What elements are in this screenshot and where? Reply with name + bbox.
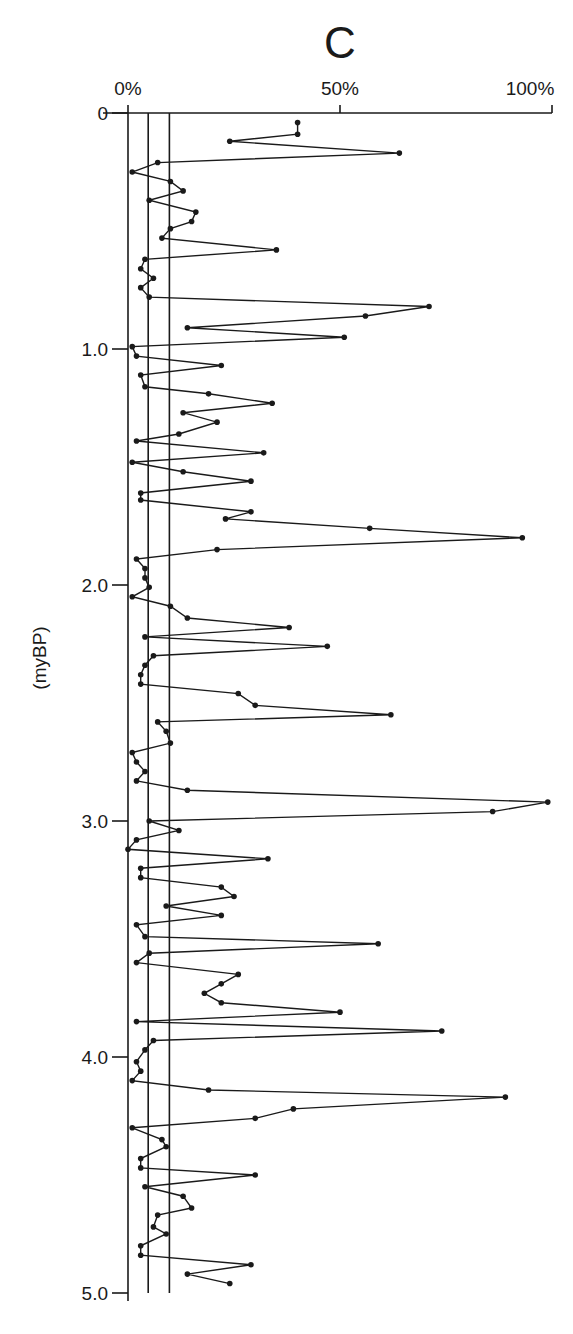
y-tick-label: 4.0: [82, 1047, 108, 1068]
data-point: [129, 594, 135, 600]
x-tick-label: 0%: [114, 78, 142, 99]
data-point: [367, 526, 373, 532]
data-point: [142, 384, 148, 390]
data-point: [168, 603, 174, 609]
data-point: [176, 431, 182, 437]
data-point: [134, 1059, 140, 1065]
data-point: [142, 769, 148, 775]
data-point: [129, 750, 135, 756]
data-point: [223, 516, 229, 522]
data-point: [155, 719, 161, 725]
data-point: [146, 198, 152, 204]
data-point: [176, 828, 182, 834]
data-point: [129, 344, 135, 350]
data-point: [168, 740, 174, 746]
y-axis-label: (myBP): [29, 626, 50, 689]
data-point: [337, 1009, 343, 1015]
data-point: [375, 941, 381, 947]
data-point: [227, 1281, 233, 1287]
data-point: [269, 400, 275, 406]
data-point: [129, 169, 135, 175]
data-point: [163, 1144, 169, 1150]
data-point: [134, 759, 140, 765]
percentage-depth-chart: C 0%50%100% 01.02.03.04.05.0 (myBP): [0, 0, 573, 1334]
data-point: [214, 419, 220, 425]
data-point: [142, 934, 148, 940]
data-point: [125, 847, 131, 853]
data-point: [138, 1156, 144, 1162]
series-line: [128, 122, 548, 1283]
data-point: [180, 410, 186, 416]
y-tick-label: 5.0: [82, 1283, 108, 1304]
data-series: [125, 120, 550, 1287]
data-point: [142, 662, 148, 668]
data-point: [168, 179, 174, 185]
data-point: [138, 266, 144, 272]
data-point: [261, 450, 267, 456]
data-point: [151, 275, 157, 281]
data-point: [206, 1087, 212, 1093]
data-point: [545, 799, 551, 805]
data-point: [439, 1028, 445, 1034]
chart-title: C: [324, 18, 356, 67]
data-point: [231, 894, 237, 900]
data-point: [227, 139, 233, 145]
data-point: [146, 950, 152, 956]
data-point: [138, 1068, 144, 1074]
data-point: [252, 703, 258, 709]
data-point: [163, 903, 169, 909]
y-tick-label: 1.0: [82, 339, 108, 360]
data-point: [214, 547, 220, 553]
data-point: [248, 509, 254, 515]
data-point: [218, 913, 224, 919]
data-point: [138, 875, 144, 881]
data-point: [252, 1116, 258, 1122]
data-point: [180, 1193, 186, 1199]
data-point: [193, 209, 199, 215]
data-point: [274, 247, 280, 253]
data-point: [189, 219, 195, 225]
reference-lines: [148, 113, 169, 1293]
data-point: [159, 235, 165, 241]
data-point: [138, 372, 144, 378]
data-point: [189, 1205, 195, 1211]
data-point: [426, 304, 432, 310]
data-point: [134, 1019, 140, 1025]
data-point: [151, 653, 157, 659]
data-point: [520, 535, 526, 541]
data-point: [138, 1252, 144, 1258]
data-point: [248, 478, 254, 484]
data-point: [218, 1000, 224, 1006]
data-point: [248, 1262, 254, 1268]
data-point: [185, 1271, 191, 1277]
data-point: [185, 325, 191, 331]
data-point: [129, 1078, 135, 1084]
data-point: [180, 188, 186, 194]
data-point: [138, 681, 144, 687]
x-axis: 0%50%100%: [103, 78, 554, 113]
data-point: [138, 497, 144, 503]
data-point: [252, 1172, 258, 1178]
data-point: [235, 972, 241, 978]
data-point: [155, 160, 161, 166]
y-tick-label: 2.0: [82, 575, 108, 596]
chart-container: C 0%50%100% 01.02.03.04.05.0 (myBP): [0, 0, 573, 1334]
data-point: [291, 1106, 297, 1112]
data-point: [142, 566, 148, 572]
data-point: [134, 778, 140, 784]
data-point: [142, 634, 148, 640]
data-point: [142, 1184, 148, 1190]
data-point: [206, 391, 212, 397]
data-point: [341, 334, 347, 340]
data-point: [163, 729, 169, 735]
data-point: [142, 1047, 148, 1053]
data-point: [218, 363, 224, 369]
x-tick-label: 100%: [506, 78, 555, 99]
data-point: [490, 809, 496, 815]
data-point: [168, 226, 174, 232]
data-point: [134, 837, 140, 843]
data-point: [295, 131, 301, 137]
data-point: [202, 990, 208, 996]
data-point: [142, 257, 148, 263]
data-point: [286, 625, 292, 631]
